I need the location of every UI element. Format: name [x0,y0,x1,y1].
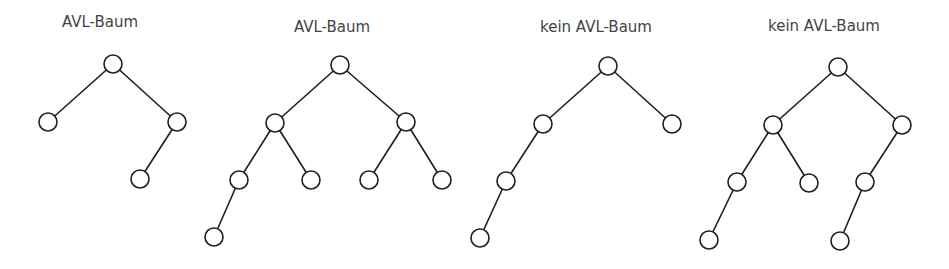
tree-4: kein AVL-Baum [700,17,911,250]
tree-edge [369,122,406,180]
tree-edge [838,67,902,125]
tree-2: AVL-Baum [205,18,451,246]
tree-node-rl [131,170,149,188]
avl-tree-diagram: AVL-Baum AVL-Baum kein AVL-Baum kein AVL… [0,0,949,269]
tree-node-ll [728,173,746,191]
tree-node-l [39,113,57,131]
tree-edge [239,123,275,180]
tree-edge [543,66,608,124]
tree-node-root [599,57,617,75]
tree-node-ll [230,171,248,189]
tree-label: kein AVL-Baum [768,17,880,35]
tree-node-l [266,114,284,132]
tree-1: AVL-Baum [39,13,186,188]
tree-node-lr [302,171,320,189]
tree-label: AVL-Baum [62,13,138,31]
tree-node-r [893,116,911,134]
tree-node-root [829,58,847,76]
tree-edge [608,66,672,124]
tree-node-lll [471,229,489,247]
tree-edge [140,122,177,179]
tree-edge [506,124,543,181]
tree-node-l [764,116,782,134]
tree-edge [406,122,442,180]
tree-node-lll [205,228,223,246]
tree-edge [113,64,177,122]
tree-edge [773,67,838,125]
tree-node-ll [497,172,515,190]
tree-3: kein AVL-Baum [471,18,681,247]
tree-edge [275,123,311,180]
tree-node-r [168,113,186,131]
tree-label: kein AVL-Baum [540,18,652,36]
tree-edge [48,64,113,122]
tree-node-lr [800,174,818,192]
tree-edge [773,125,809,183]
tree-node-rl [360,171,378,189]
tree-node-root [331,56,349,74]
tree-node-l [534,115,552,133]
tree-edge [737,125,773,182]
tree-edge [865,125,902,182]
tree-node-rr [433,171,451,189]
tree-edge [275,65,340,123]
tree-node-r [663,115,681,133]
tree-edge [340,65,406,122]
tree-node-root [104,55,122,73]
tree-node-r [397,113,415,131]
tree-node-lll [700,231,718,249]
tree-node-rll [831,232,849,250]
tree-node-rl [856,173,874,191]
tree-label: AVL-Baum [294,18,370,36]
